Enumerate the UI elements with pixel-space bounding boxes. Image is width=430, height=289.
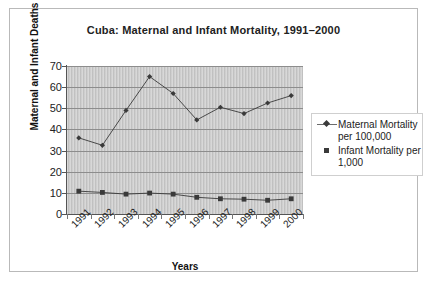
- y-axis-tick-mark: [62, 151, 67, 152]
- legend-label-maternal-line1: Maternal Mortality: [338, 119, 417, 130]
- data-point-marker: [242, 197, 247, 202]
- data-point-marker: [289, 196, 294, 201]
- series-line-1: [79, 77, 291, 146]
- data-point-marker: [265, 198, 270, 203]
- legend-label-infant-line1: Infant Mortality per: [338, 145, 421, 156]
- y-axis-tick-mark: [62, 66, 67, 67]
- data-point-marker: [76, 189, 81, 194]
- chart-legend: Maternal Mortality per 100,000 Infant Mo…: [311, 113, 423, 176]
- data-point-marker: [218, 196, 223, 201]
- legend-label-infant: Infant Mortality per 1,000: [338, 145, 421, 169]
- y-axis-tick-mark: [62, 87, 67, 88]
- data-point-marker: [171, 192, 176, 197]
- y-axis-tick-label: 40: [16, 124, 62, 134]
- x-axis-title: Years: [67, 261, 303, 272]
- data-point-marker: [194, 195, 199, 200]
- y-axis-tick-label: 70: [16, 61, 62, 71]
- legend-label-infant-line2: 1,000: [338, 157, 363, 168]
- data-point-marker: [265, 100, 270, 105]
- legend-label-maternal-line2: per 100,000: [338, 131, 391, 142]
- series-plot: [67, 66, 303, 214]
- legend-entry-maternal: Maternal Mortality per 100,000: [316, 119, 422, 143]
- y-axis-tick-mark: [62, 129, 67, 130]
- legend-label-maternal: Maternal Mortality per 100,000: [338, 119, 417, 143]
- legend-entry-infant: Infant Mortality per 1,000: [316, 145, 422, 169]
- y-axis-tick-label: 50: [16, 103, 62, 113]
- chart-title: Cuba: Maternal and Infant Mortality, 199…: [10, 24, 417, 36]
- data-point-marker: [124, 192, 129, 197]
- diamond-marker-icon: [316, 119, 338, 130]
- y-axis-tick-label: 20: [16, 167, 62, 177]
- y-axis-tick-mark: [62, 193, 67, 194]
- data-point-marker: [76, 135, 81, 140]
- y-axis-tick-mark: [62, 172, 67, 173]
- data-point-marker: [147, 191, 152, 196]
- y-axis-tick-label: 10: [16, 188, 62, 198]
- y-axis-tick-label: 30: [16, 146, 62, 156]
- data-point-marker: [100, 143, 105, 148]
- data-point-marker: [289, 93, 294, 98]
- y-axis-tick-mark: [62, 214, 67, 215]
- data-point-marker: [241, 111, 246, 116]
- chart-frame: Cuba: Maternal and Infant Mortality, 199…: [9, 8, 418, 272]
- data-point-marker: [218, 105, 223, 110]
- x-axis-tick-labels: 1991199219931994199519961997199819992000: [10, 214, 419, 254]
- y-axis-tick-label: 60: [16, 82, 62, 92]
- square-marker-icon: [316, 145, 338, 156]
- data-point-marker: [100, 190, 105, 195]
- series-line-2: [79, 191, 291, 200]
- data-point-marker: [123, 108, 128, 113]
- y-axis-tick-mark: [62, 108, 67, 109]
